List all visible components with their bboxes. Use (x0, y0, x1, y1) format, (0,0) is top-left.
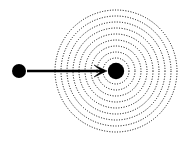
wavefront-diagram: Point source emitting concentric circula… (0, 0, 187, 141)
figure-root: Point source emitting concentric circula… (0, 0, 187, 141)
target-particle (108, 63, 124, 79)
incoming-particle (12, 64, 26, 78)
